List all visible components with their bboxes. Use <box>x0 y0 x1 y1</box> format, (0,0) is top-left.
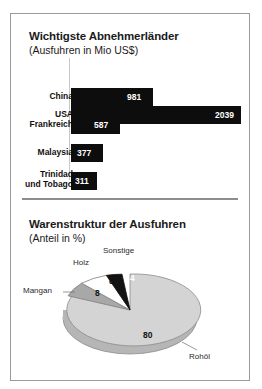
bar-value-trinidad-und-tobago: 311 <box>75 172 89 190</box>
pie-leader-line-rohoel <box>182 342 197 350</box>
bar-chart-panel: Wichtigste Abnehmerländer (Ausfuhren in … <box>11 14 249 198</box>
pie-value-sonstige: 4 <box>130 273 135 283</box>
bar-value-usa: 2039 <box>215 106 234 124</box>
pie-label-rohoel: Rohöl <box>189 352 210 361</box>
bar-category-label-trinidad-und-tobago: Trinidad und Tobago <box>10 170 73 189</box>
infographic-poster: Wichtigste Abnehmerländer (Ausfuhren in … <box>10 13 250 381</box>
bar-chart-title: Wichtigste Abnehmerländer <box>29 30 179 42</box>
pie-label-sonstige: Sonstige <box>103 246 134 255</box>
pie-chart-graphic: Mangan Holz Sonstige Rohöl 8 8 4 80 <box>11 200 249 381</box>
pie-label-holz: Holz <box>73 258 89 267</box>
bar-value-malaysia: 377 <box>77 144 91 162</box>
pie-value-rohoel: 80 <box>143 330 152 340</box>
pie-label-mangan: Mangan <box>23 286 52 295</box>
bar-chart-subtitle: (Ausfuhren in Mio US$) <box>29 44 138 56</box>
pie-value-holz: 8 <box>109 276 114 286</box>
bar-value-frankreich: 587 <box>94 116 108 134</box>
pie-value-mangan: 8 <box>95 288 100 298</box>
bar-category-label-china: China <box>10 92 73 102</box>
bar-category-label-malaysia: Malaysia <box>10 148 73 158</box>
bar-value-china: 981 <box>127 88 141 106</box>
bar-category-label-frankreich: Frankreich <box>10 120 73 130</box>
pie-chart-panel: Warenstruktur der Ausfuhren (Anteil in %… <box>11 200 249 381</box>
